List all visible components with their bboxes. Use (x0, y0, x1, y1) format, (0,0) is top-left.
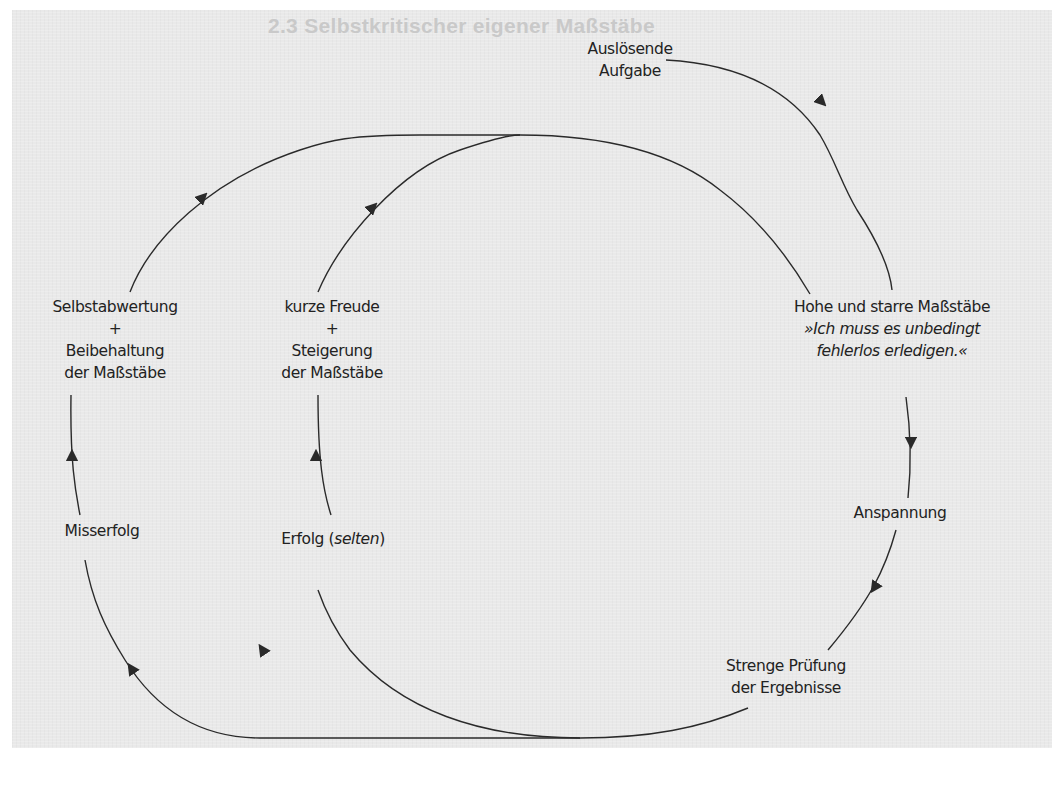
edge-standards-to-tension (906, 397, 910, 498)
node-success-label: Erfolg ( (281, 530, 334, 548)
node-devaluation-line1: Selbstabwertung (52, 296, 177, 318)
node-failure: Misserfolg (65, 520, 140, 542)
node-devaluation-plus: + (52, 318, 177, 340)
edge-trigger-to-standards (666, 60, 892, 290)
edge-joy-to-standards (318, 135, 520, 292)
node-standards: Hohe und starre Maßstäbe »Ich muss es un… (794, 296, 990, 362)
node-standards-quote-line2: fehlerlos erledigen.« (794, 340, 990, 362)
node-trigger: Auslösende Aufgabe (587, 38, 672, 82)
edge-tension-to-review (828, 530, 896, 650)
node-joy-plus: + (281, 318, 383, 340)
node-success-italic: selten (334, 530, 379, 548)
edge-review-to-failure (85, 560, 748, 738)
node-standards-title: Hohe und starre Maßstäbe (794, 296, 990, 318)
node-tension: Anspannung (854, 502, 947, 524)
node-failure-label: Misserfolg (65, 520, 140, 542)
node-standards-quote-line1: »Ich muss es unbedingt (794, 318, 990, 340)
node-trigger-line2: Aufgabe (587, 60, 672, 82)
edge-devaluation-to-standards (130, 135, 810, 294)
node-trigger-line1: Auslösende (587, 38, 672, 60)
node-joy-line3: der Maßstäbe (281, 362, 383, 384)
edge-success-to-joy (318, 395, 331, 515)
node-review-line1: Strenge Prüfung (726, 655, 846, 677)
cycle-diagram (0, 0, 1064, 794)
node-joy-line2: Steigerung (281, 340, 383, 362)
node-joy: kurze Freude + Steigerung der Maßstäbe (281, 296, 383, 384)
node-devaluation-line2: Beibehaltung (52, 340, 177, 362)
node-success: Erfolg (selten) (281, 528, 385, 550)
node-success-close: ) (379, 530, 385, 548)
edge-review-to-success (318, 590, 580, 738)
node-devaluation: Selbstabwertung + Beibehaltung der Maßst… (52, 296, 177, 384)
node-review-line2: der Ergebnisse (726, 677, 846, 699)
node-review: Strenge Prüfung der Ergebnisse (726, 655, 846, 699)
node-tension-label: Anspannung (854, 502, 947, 524)
node-joy-line1: kurze Freude (281, 296, 383, 318)
node-devaluation-line3: der Maßstäbe (52, 362, 177, 384)
